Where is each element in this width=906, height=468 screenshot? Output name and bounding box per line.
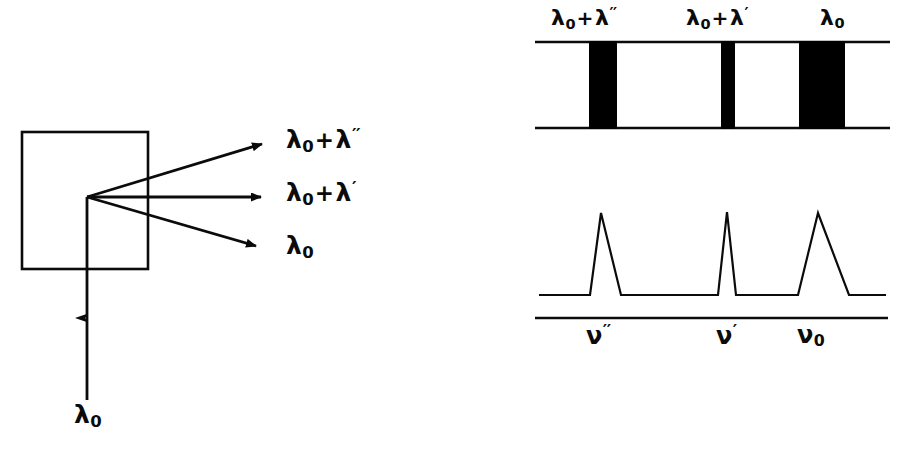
lambda-subscript: 0: [565, 16, 575, 32]
label-nu-zero: ν0: [797, 323, 825, 349]
nu-glyph: ν: [586, 322, 603, 350]
lambda-subscript: 0: [700, 16, 710, 32]
label-scattered-stokes: λ0+λ′: [286, 180, 356, 208]
lambda-subscript: 0: [834, 15, 844, 31]
lambda-subscript: 0: [302, 243, 313, 262]
plus-operator: +: [314, 127, 336, 153]
shift-prime-marks: ′: [352, 178, 356, 198]
shift-prime-marks: ′: [744, 5, 748, 23]
scattering-schematic: [22, 132, 262, 400]
label-scattered-anti-stokes: λ0+λ′′: [286, 127, 360, 155]
label-incident-beam: λ0: [74, 402, 102, 430]
lambda-glyph: λ: [286, 125, 302, 154]
lambda-subscript: 0: [302, 137, 313, 156]
shift-lambda-glyph: λ: [336, 125, 352, 154]
spectrogram-strip: [535, 41, 890, 129]
band-anti-stokes: [589, 41, 617, 129]
lambda-glyph: λ: [686, 5, 700, 30]
lambda-glyph: λ: [820, 5, 834, 30]
label-band-stokes: λ0+λ′: [686, 7, 748, 31]
lambda-subscript: 0: [302, 190, 313, 209]
scattered-beam-rayleigh: [87, 197, 256, 246]
plus-operator: +: [314, 180, 336, 206]
label-nu-double-prime: ν′′: [586, 323, 611, 348]
plus-operator: +: [576, 6, 595, 30]
shift-prime-marks: ′′: [352, 125, 360, 145]
nu-prime-marks: ′′: [603, 321, 611, 341]
lambda-glyph: λ: [286, 178, 302, 207]
nu-glyph: ν: [797, 321, 814, 349]
lambda-glyph: λ: [74, 400, 90, 429]
shift-prime-marks: ′′: [609, 5, 616, 23]
lambda-subscript: 0: [90, 412, 101, 431]
figure-canvas: [0, 0, 906, 468]
label-scattered-rayleigh: λ0: [286, 233, 314, 261]
label-band-anti-stokes: λ0+λ′′: [551, 7, 617, 31]
plus-operator: +: [711, 6, 730, 30]
shift-lambda-glyph: λ: [595, 5, 609, 30]
band-stokes: [721, 41, 735, 129]
lambda-glyph: λ: [551, 5, 565, 30]
label-nu-prime: ν′: [716, 323, 737, 348]
sample-box: [22, 132, 148, 269]
nu-glyph: ν: [716, 322, 733, 350]
scattered-beam-anti-stokes: [87, 144, 262, 197]
shift-lambda-glyph: λ: [730, 5, 744, 30]
nu-subscript: 0: [814, 331, 825, 350]
intensity-trace-plot: [535, 212, 888, 318]
label-band-rayleigh: λ0: [820, 7, 845, 31]
lambda-glyph: λ: [286, 231, 302, 260]
intensity-trace-line: [539, 212, 886, 295]
band-rayleigh: [799, 41, 845, 129]
nu-prime-marks: ′: [733, 321, 737, 341]
shift-lambda-glyph: λ: [336, 178, 352, 207]
